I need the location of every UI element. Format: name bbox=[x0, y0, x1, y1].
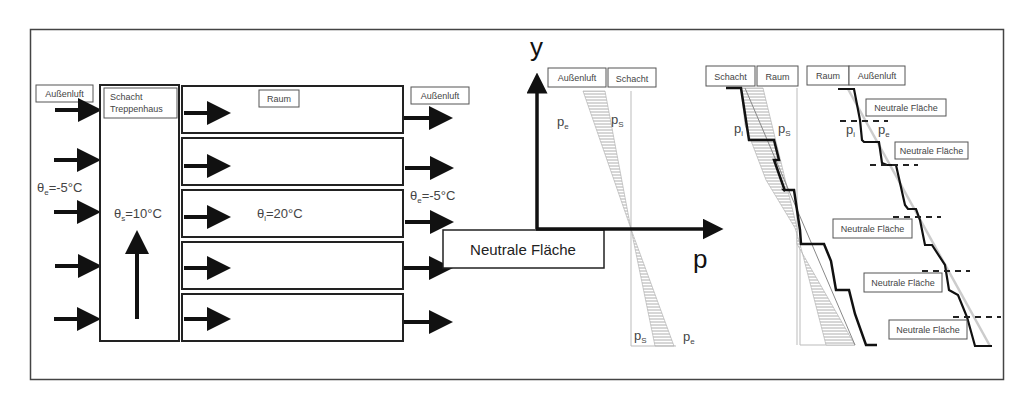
temp-outside-left: θe=-5°C bbox=[37, 180, 82, 197]
pressure-chart-shaft: Neutrale Fläche y p Außenluft Schacht pe… bbox=[443, 32, 707, 346]
svg-text:Außenluft: Außenluft bbox=[558, 73, 597, 83]
svg-text:Schacht: Schacht bbox=[110, 92, 143, 102]
svg-text:Außenluft: Außenluft bbox=[858, 71, 897, 81]
header-outside-air-b: Außenluft bbox=[849, 66, 905, 85]
svg-text:Neutrale Fläche: Neutrale Fläche bbox=[871, 278, 935, 288]
header-room-a: Raum bbox=[757, 66, 798, 86]
svg-text:Neutrale Fläche: Neutrale Fläche bbox=[874, 103, 938, 113]
svg-text:pS: pS bbox=[634, 328, 647, 345]
svg-text:pe: pe bbox=[557, 114, 569, 131]
svg-text:pS: pS bbox=[611, 112, 624, 129]
header-outside-air: Außenluft bbox=[548, 68, 606, 87]
y-axis-label: y bbox=[530, 32, 543, 62]
svg-text:pi: pi bbox=[846, 122, 855, 139]
inflow-arrows bbox=[54, 110, 82, 319]
pressure-wedge-upper bbox=[583, 91, 631, 229]
pressure-chart-shaft-room: Schacht Raum pi pS bbox=[706, 66, 877, 345]
header-room-b: Raum bbox=[807, 66, 849, 85]
neutral-plane-label-1: Neutrale Fläche bbox=[866, 99, 946, 116]
neutral-plane-label-2: Neutrale Fläche bbox=[895, 142, 968, 159]
svg-text:Außenluft: Außenluft bbox=[45, 89, 84, 99]
header-shaft: Schacht bbox=[608, 68, 656, 87]
x-axis-label: p bbox=[693, 244, 707, 274]
svg-text:Neutrale Fläche: Neutrale Fläche bbox=[900, 146, 964, 156]
header-shaft-a: Schacht bbox=[706, 66, 755, 86]
temp-outside-right: θe=-5°C bbox=[410, 188, 455, 205]
svg-text:Schacht: Schacht bbox=[714, 72, 747, 82]
svg-text:Raum: Raum bbox=[765, 72, 789, 82]
outflow-arrows bbox=[404, 118, 434, 322]
neutral-plane-label-3: Neutrale Fläche bbox=[833, 219, 912, 238]
outside-air-left-label: Außenluft bbox=[36, 85, 93, 102]
temp-room: θi=20°C bbox=[257, 206, 303, 223]
pressure-chart-room-outside: Raum Außenluft pi pe Neutrale Fläche Neu… bbox=[807, 66, 1001, 346]
svg-text:Raum: Raum bbox=[267, 94, 291, 104]
svg-text:Neutrale Fläche: Neutrale Fläche bbox=[470, 241, 576, 258]
stack-effect-diagram: Außenluft θe=-5°C Schacht Treppenhaus θs… bbox=[0, 0, 1024, 400]
neutral-plane-label: Neutrale Fläche bbox=[443, 230, 604, 268]
building-section: Außenluft θe=-5°C Schacht Treppenhaus θs… bbox=[36, 85, 469, 341]
svg-text:Treppenhaus: Treppenhaus bbox=[110, 104, 163, 114]
svg-text:pi: pi bbox=[734, 121, 743, 138]
shaft-stairwell: Schacht Treppenhaus θs=10°C bbox=[100, 85, 179, 341]
svg-text:Neutrale Fläche: Neutrale Fläche bbox=[841, 224, 905, 234]
rooms: Raum θi=20°C bbox=[182, 86, 403, 341]
svg-text:Raum: Raum bbox=[816, 71, 840, 81]
neutral-plane-label-5: Neutrale Fläche bbox=[889, 320, 967, 339]
svg-text:Neutrale Fläche: Neutrale Fläche bbox=[896, 325, 960, 335]
neutral-plane-label-4: Neutrale Fläche bbox=[864, 273, 942, 292]
svg-text:pe: pe bbox=[878, 122, 890, 139]
svg-text:Außenluft: Außenluft bbox=[421, 91, 460, 101]
svg-text:Schacht: Schacht bbox=[616, 74, 649, 84]
outside-air-right-label: Außenluft bbox=[411, 87, 469, 104]
room-label: Raum bbox=[259, 90, 299, 107]
temp-shaft: θs=10°C bbox=[114, 206, 162, 223]
svg-text:pe: pe bbox=[683, 329, 695, 346]
svg-text:pS: pS bbox=[778, 121, 791, 138]
